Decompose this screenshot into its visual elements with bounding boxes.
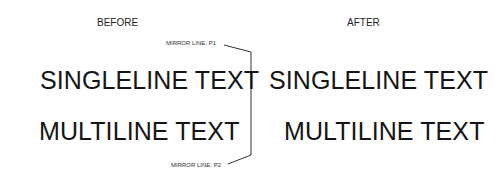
after-multiline-text: MULTILINE TEXT bbox=[284, 119, 485, 144]
diagram-canvas: BEFORE AFTER MIRROR LINE: P1 MIRROR LINE… bbox=[0, 0, 501, 180]
after-singleline-text: SINGLELINE TEXT bbox=[269, 68, 488, 93]
before-singleline-text: SINGLELINE TEXT bbox=[40, 68, 259, 93]
before-multiline-text: MULTILINE TEXT bbox=[39, 119, 240, 144]
